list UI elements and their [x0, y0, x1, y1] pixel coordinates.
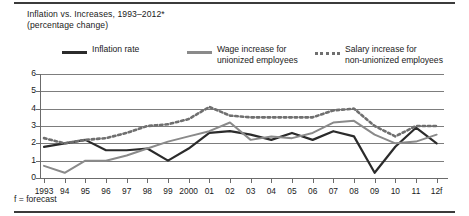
x-tick-label-08: 08 [349, 186, 358, 196]
y-tick-label-6: 6 [16, 68, 36, 78]
chart-legend: Inflation rate Wage increase for unioniz… [27, 45, 447, 69]
legend-label-salary-increase: Salary increase for non-unionized employ… [345, 44, 443, 66]
legend-label-line1: Inflation rate [92, 44, 139, 55]
series-line [44, 107, 437, 143]
y-tick-label-1: 1 [16, 155, 36, 165]
x-tick-mark-10 [395, 178, 396, 183]
x-tick-mark-07 [333, 178, 334, 183]
y-tick-label-3: 3 [16, 120, 36, 130]
x-tick-mark-98 [147, 178, 148, 183]
x-tick-label-06: 06 [308, 186, 317, 196]
top-rule [14, 2, 455, 4]
x-tick-mark-95 [85, 178, 86, 183]
x-tick-mark-04 [271, 178, 272, 183]
x-tick-label-10: 10 [391, 186, 400, 196]
x-tick-label-99: 99 [163, 186, 172, 196]
x-tick-label-97: 97 [122, 186, 131, 196]
plot-area [40, 74, 444, 178]
x-tick-mark-99 [168, 178, 169, 183]
figure-footnote: f = forecast [14, 194, 57, 204]
x-tick-label-09: 09 [370, 186, 379, 196]
x-tick-mark-01 [209, 178, 210, 183]
x-tick-label-95: 95 [81, 186, 90, 196]
plot-wrapper: 0123456 19939495969798992000010203040506… [0, 70, 469, 200]
x-tick-mark-05 [292, 178, 293, 183]
x-tick-label-96: 96 [101, 186, 110, 196]
x-tick-mark-96 [106, 178, 107, 183]
series-line [44, 128, 437, 173]
x-axis-ticks [0, 178, 469, 184]
legend-swatch-solid-dark-icon [62, 51, 87, 54]
x-tick-mark-1993 [44, 178, 45, 183]
series-lines [40, 74, 444, 178]
x-tick-label-07: 07 [329, 186, 338, 196]
x-tick-label-05: 05 [287, 186, 296, 196]
legend-label-line1: Salary increase for [345, 44, 443, 55]
x-tick-mark-08 [354, 178, 355, 183]
x-tick-label-98: 98 [143, 186, 152, 196]
x-tick-mark-12f [437, 178, 438, 183]
figure-title: Inflation vs. Increases, 1993–2012* [27, 9, 327, 20]
x-tick-mark-03 [251, 178, 252, 183]
legend-label-line2: unionized employees [217, 55, 298, 66]
x-tick-mark-02 [230, 178, 231, 183]
x-tick-label-01: 01 [205, 186, 214, 196]
x-axis-labels: 1993949596979899200001020304050607080910… [0, 186, 469, 200]
y-tick-label-2: 2 [16, 137, 36, 147]
x-tick-mark-11 [416, 178, 417, 183]
x-tick-label-03: 03 [246, 186, 255, 196]
x-tick-mark-94 [65, 178, 66, 183]
x-tick-mark-2000 [189, 178, 190, 183]
figure-frame: Inflation vs. Increases, 1993–2012* (per… [0, 0, 469, 216]
legend-label-inflation-rate: Inflation rate [92, 44, 139, 55]
x-tick-label-11: 11 [412, 186, 421, 196]
x-tick-label-94: 94 [60, 186, 69, 196]
legend-label-wage-increase: Wage increase for unionized employees [217, 44, 298, 66]
x-tick-mark-97 [127, 178, 128, 183]
legend-label-line1: Wage increase for [217, 44, 298, 55]
bottom-rule [14, 211, 455, 213]
x-tick-mark-09 [375, 178, 376, 183]
y-tick-label-4: 4 [16, 103, 36, 113]
legend-item-wage-increase: Wage increase for unionized employees [187, 45, 327, 69]
y-tick-label-5: 5 [16, 85, 36, 95]
x-tick-label-2000: 2000 [179, 186, 198, 196]
legend-item-inflation-rate: Inflation rate [62, 45, 192, 69]
legend-swatch-dotted-gray-icon [315, 52, 340, 55]
figure-subtitle: (percentage change) [27, 20, 327, 31]
x-tick-label-12f: 12f [431, 186, 443, 196]
figure-title-block: Inflation vs. Increases, 1993–2012* (per… [27, 9, 327, 32]
legend-item-salary-increase: Salary increase for non-unionized employ… [315, 45, 465, 69]
legend-swatch-solid-gray-icon [187, 51, 212, 54]
x-tick-mark-06 [313, 178, 314, 183]
x-tick-label-02: 02 [225, 186, 234, 196]
legend-label-line2: non-unionized employees [345, 55, 443, 66]
x-tick-label-04: 04 [267, 186, 276, 196]
